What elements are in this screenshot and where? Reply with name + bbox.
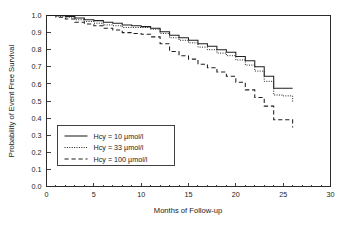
y-tick-label: 0.8 [32,45,42,54]
y-tick-label: 0.4 [32,114,42,123]
series-line-0 [47,16,293,89]
x-tick-label: 30 [327,190,335,199]
survival-curve-chart: 051015202530 0.00.10.20.30.40.50.60.70.8… [0,0,358,226]
x-tick-label: 5 [92,190,96,199]
x-tick-label: 0 [45,190,49,199]
series-line-1 [47,16,293,102]
y-tick-label: 0.1 [32,165,42,174]
x-axis-tick-labels: 051015202530 [45,190,335,199]
legend: Hcy = 10 µmol/lHcy = 33 µmol/lHcy = 100 … [58,126,175,166]
y-tick-label: 0.5 [32,97,42,106]
x-tick-label: 10 [137,190,145,199]
legend-label-2: Hcy = 100 µmol/l [94,155,148,164]
y-tick-label: 0.0 [32,182,42,191]
y-tick-label: 1.0 [32,11,42,20]
y-tick-label: 0.3 [32,131,42,140]
figure-container: 051015202530 0.00.10.20.30.40.50.60.70.8… [0,0,358,226]
y-axis-title: Probability of Event Free Survival [7,45,16,158]
x-axis-title: Months of Follow-up [154,206,222,215]
x-axis-ticks [47,183,331,187]
y-tick-label: 0.7 [32,62,42,71]
x-tick-label: 20 [232,190,240,199]
y-axis-ticks [47,16,51,187]
legend-label-0: Hcy = 10 µmol/l [94,132,144,141]
y-tick-label: 0.9 [32,28,42,37]
x-tick-label: 25 [279,190,287,199]
y-tick-label: 0.2 [32,148,42,157]
data-series-group [47,16,293,128]
y-tick-label: 0.6 [32,80,42,89]
legend-label-1: Hcy = 33 µmol/l [94,143,144,152]
x-tick-label: 15 [185,190,193,199]
y-axis-tick-labels: 0.00.10.20.30.40.50.60.70.80.91.0 [32,11,42,191]
